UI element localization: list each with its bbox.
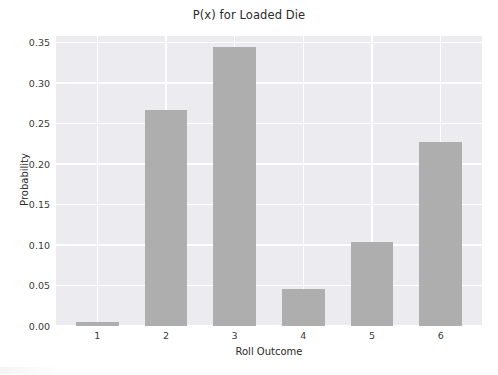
x-tick-label: 1 bbox=[94, 330, 100, 341]
x-tick-label: 6 bbox=[438, 330, 444, 341]
x-axis-label: Roll Outcome bbox=[56, 346, 482, 357]
y-tick-label: 0.35 bbox=[8, 37, 50, 48]
y-tick-label: 0.30 bbox=[8, 77, 50, 88]
chart-title: P(x) for Loaded Die bbox=[0, 8, 498, 22]
y-axis-tick-labels: 0.000.050.100.150.200.250.300.35 bbox=[0, 36, 498, 326]
x-tick-label: 3 bbox=[232, 330, 238, 341]
x-axis-tick-labels: 123456 bbox=[56, 330, 482, 346]
x-tick-label: 5 bbox=[369, 330, 375, 341]
y-tick-label: 0.05 bbox=[8, 280, 50, 291]
chart-figure: P(x) for Loaded Die 0.000.050.100.150.20… bbox=[0, 0, 498, 375]
page-edge-artifact bbox=[0, 367, 60, 374]
y-axis-label: Probability bbox=[19, 100, 30, 260]
x-tick-label: 2 bbox=[163, 330, 169, 341]
y-tick-label: 0.00 bbox=[8, 321, 50, 332]
x-tick-label: 4 bbox=[300, 330, 306, 341]
